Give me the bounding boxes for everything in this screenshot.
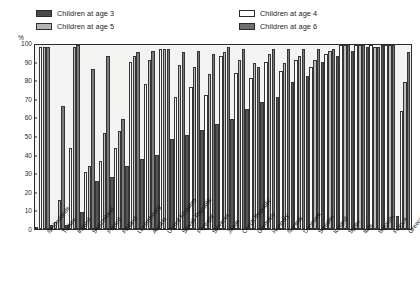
- legend-item-age5: Children at age 5: [36, 22, 114, 31]
- y-axis-tick-label: 0: [18, 227, 32, 234]
- legend-label-age3: Children at age 3: [57, 9, 114, 18]
- legend-swatch-age3: [36, 10, 52, 17]
- legend-swatch-age6: [239, 23, 255, 30]
- bar-group: [80, 45, 95, 229]
- plot-area-wrapper: 0102030405060708090100: [34, 44, 412, 230]
- y-axis-tick-mark: [34, 99, 37, 100]
- bar-group: [110, 45, 125, 229]
- bar-group: [155, 45, 170, 229]
- x-axis-label: Sweden: [317, 231, 322, 235]
- bar: [407, 52, 410, 229]
- y-axis-tick-label: 80: [18, 78, 32, 85]
- x-axis-label: Turkey: [61, 231, 66, 235]
- bar-group: [245, 45, 260, 229]
- y-axis-tick-label: 90: [18, 59, 32, 66]
- legend-item-age3: Children at age 3: [36, 9, 114, 18]
- bar-group: [125, 45, 140, 229]
- bar-group: [95, 45, 110, 229]
- legend-swatch-age5: [36, 23, 52, 30]
- bar-group: [50, 45, 65, 229]
- bar-group: [381, 45, 396, 229]
- y-axis-tick-label: 60: [18, 115, 32, 122]
- chart-legend: Children at age 3 Children at age 4 Chil…: [36, 9, 408, 35]
- x-axis-label: Iceland: [332, 231, 337, 235]
- y-axis-tick-label: 20: [18, 190, 32, 197]
- bar-group: [366, 45, 381, 229]
- x-axis-label: Slovenia: [211, 231, 216, 235]
- bar-group: [140, 45, 155, 229]
- bar-group: [170, 45, 185, 229]
- bar-group: [276, 45, 291, 229]
- x-axis-label: Greece: [407, 231, 412, 235]
- x-axis-label: France: [392, 231, 397, 235]
- bar-group: [351, 45, 366, 229]
- x-axis-label: Slovak Republic: [181, 231, 186, 235]
- bar-group: [321, 45, 336, 229]
- x-axis-label: Japan: [226, 231, 231, 235]
- y-axis-tick-label: 10: [18, 208, 32, 215]
- x-axis-label: Hungary: [271, 231, 276, 235]
- y-axis-tick-mark: [34, 174, 37, 175]
- legend-item-age4: Children at age 4: [239, 9, 317, 18]
- x-axis-label: Switzerland: [91, 231, 96, 235]
- y-axis-tick-label: 40: [18, 152, 32, 159]
- chart-root: Children at age 3 Children at age 4 Chil…: [0, 0, 420, 297]
- bar-group: [396, 45, 411, 229]
- y-axis-tick-mark: [34, 211, 37, 212]
- y-axis-tick-mark: [34, 137, 37, 138]
- x-axis-label: Denmark: [302, 231, 307, 235]
- x-axis-label: Norway: [286, 231, 291, 235]
- x-axis-label: Czech Republic: [241, 231, 246, 235]
- y-axis-tick-mark: [34, 62, 37, 63]
- x-axis-label: Luxembourg: [136, 231, 141, 235]
- bar-group: [230, 45, 245, 229]
- x-axis-label: Germany: [256, 231, 261, 235]
- y-axis-tick-label: 70: [18, 97, 32, 104]
- x-axis-label: Ireland: [76, 231, 81, 235]
- y-axis-tick-label: 30: [18, 171, 32, 178]
- y-axis-tick-mark: [34, 155, 37, 156]
- x-axis-label: Austria: [151, 231, 156, 235]
- legend-item-age6: Children at age 6: [239, 22, 317, 31]
- legend-label-age5: Children at age 5: [57, 22, 114, 31]
- bar-group: [306, 45, 321, 229]
- bar-group: [291, 45, 306, 229]
- x-axis-label: Portugal: [196, 231, 201, 235]
- x-axis-label: Belgium: [377, 231, 382, 235]
- y-axis-tick-label: 50: [18, 134, 32, 141]
- x-axis-label: Netherlands: [46, 231, 51, 235]
- x-axis-labels: NetherlandsTurkeyIrelandSwitzerlandPolan…: [34, 231, 412, 295]
- plot-area: [34, 44, 412, 230]
- legend-label-age4: Children at age 4: [260, 9, 317, 18]
- x-axis-label: United Kingdom: [166, 231, 171, 235]
- y-axis-tick-mark: [34, 118, 37, 119]
- bar-group: [35, 45, 50, 229]
- y-axis-tick-label: 100: [18, 41, 32, 48]
- y-axis-tick-mark: [34, 81, 37, 82]
- y-axis-tick-mark: [34, 192, 37, 193]
- bar-group: [215, 45, 230, 229]
- bar-group: [336, 45, 351, 229]
- x-axis-label: Spain: [347, 231, 352, 235]
- legend-label-age6: Children at age 6: [260, 22, 317, 31]
- x-axis-label: Finland: [121, 231, 126, 235]
- legend-swatch-age4: [239, 10, 255, 17]
- x-axis-label: Italy: [362, 231, 367, 235]
- bar-group: [65, 45, 80, 229]
- x-axis-label: Poland: [106, 231, 111, 235]
